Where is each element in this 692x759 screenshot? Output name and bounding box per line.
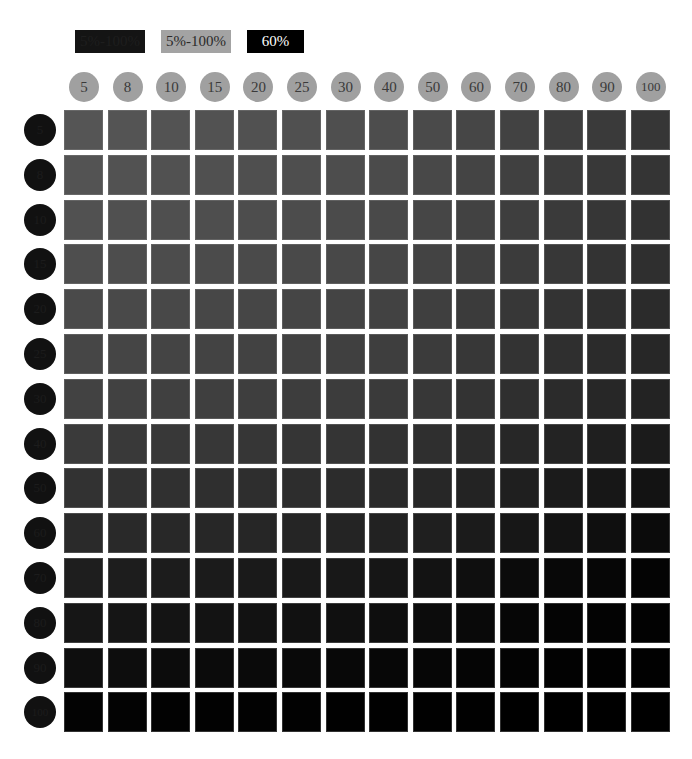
swatch-cell bbox=[64, 200, 103, 240]
swatch-cell bbox=[151, 200, 190, 240]
swatch-cell bbox=[369, 468, 408, 508]
swatch-cell bbox=[369, 513, 408, 553]
swatch-cell bbox=[456, 244, 495, 284]
swatch-cell bbox=[282, 155, 321, 195]
swatch-cell bbox=[500, 379, 539, 419]
swatch-cell bbox=[64, 603, 103, 643]
row-header: 15 bbox=[24, 248, 56, 280]
swatch-cell bbox=[456, 648, 495, 688]
swatch-cell bbox=[587, 155, 626, 195]
swatch-cell bbox=[587, 289, 626, 329]
swatch-cell bbox=[282, 289, 321, 329]
swatch-cell bbox=[413, 110, 452, 150]
column-header: 60 bbox=[461, 72, 491, 102]
swatch-cell bbox=[369, 110, 408, 150]
swatch-cell bbox=[326, 379, 365, 419]
swatch-cell bbox=[326, 110, 365, 150]
swatch-cell bbox=[238, 648, 277, 688]
swatch-cell bbox=[631, 110, 670, 150]
swatch-cell bbox=[369, 603, 408, 643]
swatch-cell bbox=[587, 468, 626, 508]
swatch-cell bbox=[413, 558, 452, 598]
swatch-cell bbox=[282, 648, 321, 688]
row-header: 100 bbox=[24, 696, 56, 728]
legend-item: 60% bbox=[247, 30, 304, 53]
swatch-cell bbox=[631, 468, 670, 508]
swatch-cell bbox=[413, 244, 452, 284]
swatch-cell bbox=[326, 558, 365, 598]
swatch-cell bbox=[369, 334, 408, 374]
swatch-cell bbox=[282, 379, 321, 419]
swatch-cell bbox=[238, 558, 277, 598]
swatch-cell bbox=[544, 155, 583, 195]
swatch-cell bbox=[282, 603, 321, 643]
swatch-cell bbox=[456, 558, 495, 598]
swatch-cell bbox=[151, 513, 190, 553]
swatch-cell bbox=[500, 289, 539, 329]
swatch-cell bbox=[587, 558, 626, 598]
swatch-cell bbox=[326, 603, 365, 643]
swatch-cell bbox=[544, 200, 583, 240]
column-header: 70 bbox=[505, 72, 535, 102]
swatch-cell bbox=[369, 379, 408, 419]
row-header: 60 bbox=[24, 517, 56, 549]
swatch-cell bbox=[64, 289, 103, 329]
column-header: 90 bbox=[592, 72, 622, 102]
swatch-cell bbox=[151, 648, 190, 688]
swatch-cell bbox=[64, 468, 103, 508]
swatch-cell bbox=[413, 692, 452, 732]
swatch-cell bbox=[151, 468, 190, 508]
swatch-cell bbox=[631, 200, 670, 240]
swatch-cell bbox=[64, 692, 103, 732]
row-header: 50 bbox=[24, 472, 56, 504]
swatch-cell bbox=[369, 289, 408, 329]
swatch-cell bbox=[544, 244, 583, 284]
swatch-cell bbox=[500, 468, 539, 508]
swatch-cell bbox=[456, 155, 495, 195]
swatch-cell bbox=[326, 648, 365, 688]
swatch-cell bbox=[195, 289, 234, 329]
column-header: 30 bbox=[331, 72, 361, 102]
swatch-cell bbox=[413, 289, 452, 329]
swatch-cell bbox=[195, 110, 234, 150]
swatch-cell bbox=[195, 558, 234, 598]
swatch-cell bbox=[195, 513, 234, 553]
swatch-cell bbox=[108, 289, 147, 329]
swatch-cell bbox=[282, 200, 321, 240]
swatch-cell bbox=[631, 379, 670, 419]
swatch-cell bbox=[151, 155, 190, 195]
row-header: 25 bbox=[24, 338, 56, 370]
row-header: 8 bbox=[24, 159, 56, 191]
swatch-cell bbox=[64, 379, 103, 419]
swatch-cell bbox=[500, 244, 539, 284]
column-header: 50 bbox=[418, 72, 448, 102]
swatch-cell bbox=[500, 334, 539, 374]
swatch-cell bbox=[151, 244, 190, 284]
swatch-cell bbox=[587, 334, 626, 374]
swatch-cell bbox=[108, 155, 147, 195]
swatch-cell bbox=[151, 379, 190, 419]
swatch-cell bbox=[413, 155, 452, 195]
swatch-cell bbox=[544, 289, 583, 329]
swatch-cell bbox=[369, 692, 408, 732]
row-header: 40 bbox=[24, 428, 56, 460]
swatch-cell bbox=[195, 468, 234, 508]
swatch-cell bbox=[587, 692, 626, 732]
swatch-cell bbox=[500, 200, 539, 240]
row-header: 10 bbox=[24, 204, 56, 236]
swatch-cell bbox=[64, 155, 103, 195]
swatch-cell bbox=[195, 379, 234, 419]
swatch-cell bbox=[631, 692, 670, 732]
swatch-cell bbox=[631, 289, 670, 329]
swatch-cell bbox=[151, 424, 190, 464]
column-header: 15 bbox=[200, 72, 230, 102]
swatch-cell bbox=[238, 200, 277, 240]
swatch-cell bbox=[238, 110, 277, 150]
swatch-cell bbox=[456, 379, 495, 419]
swatch-cell bbox=[456, 110, 495, 150]
swatch-cell bbox=[631, 334, 670, 374]
swatch-cell bbox=[64, 334, 103, 374]
swatch-cell bbox=[238, 603, 277, 643]
swatch-cell bbox=[151, 334, 190, 374]
swatch-cell bbox=[413, 200, 452, 240]
